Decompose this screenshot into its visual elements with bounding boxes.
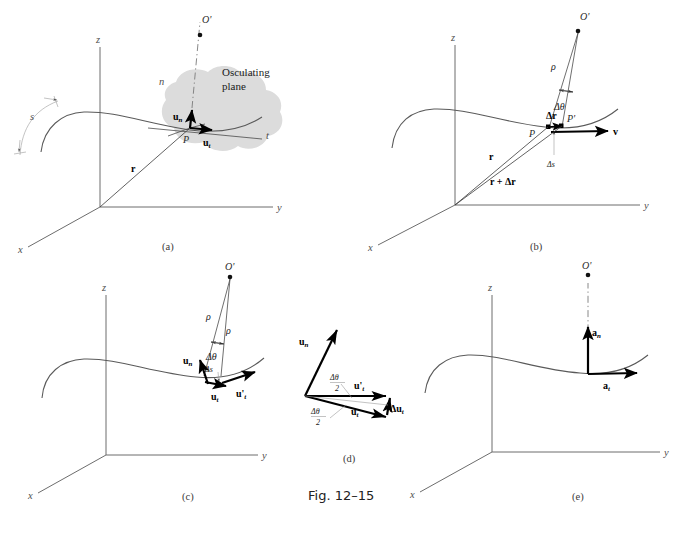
oprime-label-b: O' bbox=[580, 11, 590, 22]
canvas-background bbox=[0, 0, 680, 536]
delta-s-label-b: Δs bbox=[546, 160, 555, 169]
half-angle-den-lower-d: 2 bbox=[316, 418, 320, 427]
axis-y-label-e: y bbox=[663, 447, 669, 458]
axis-x-label-e: x bbox=[409, 489, 415, 500]
position-vector-label-a: r bbox=[131, 163, 136, 174]
radius-2-label-c: ρ bbox=[225, 325, 231, 336]
delta-r-label-b: Δr bbox=[546, 110, 557, 121]
axis-y-label-c: y bbox=[261, 450, 267, 461]
panel-label-b: (b) bbox=[530, 241, 543, 253]
axis-x-label-b: x bbox=[367, 242, 373, 253]
osculating-plane-label-line2: plane bbox=[222, 80, 246, 92]
position-vector-sum-label-b: r + Δr bbox=[490, 176, 516, 187]
delta-r-vector-b bbox=[548, 126, 562, 127]
half-angle-den-upper-d: 2 bbox=[335, 384, 339, 393]
arc-length-label-a: s bbox=[30, 111, 34, 122]
panel-label-a: (a) bbox=[162, 241, 174, 253]
point-p-label-a: P bbox=[182, 134, 189, 145]
oprime-dot-a bbox=[198, 33, 203, 38]
axis-z-label-e: z bbox=[487, 282, 492, 293]
oprime-label-c: O' bbox=[225, 261, 235, 272]
radius-1-label-c: ρ bbox=[205, 311, 211, 322]
oprime-label-e: O' bbox=[582, 260, 592, 271]
axis-y-label-a: y bbox=[276, 202, 282, 213]
osculating-plane-label-line1: Osculating bbox=[222, 66, 270, 78]
axis-y-label-b: y bbox=[643, 200, 649, 211]
figure-svg: z y x s t r O' un ut P n bbox=[0, 0, 680, 536]
oprime-dot-b bbox=[576, 29, 581, 34]
oprime-label-a: O' bbox=[202, 14, 212, 25]
velocity-label-b: v bbox=[613, 126, 618, 137]
panel-label-e: (e) bbox=[572, 491, 584, 503]
panel-label-d: (d) bbox=[343, 453, 356, 465]
delta-s-label-c: Δs bbox=[204, 365, 213, 374]
half-angle-num-lower-d: Δθ bbox=[310, 407, 320, 416]
half-angle-num-upper-d: Δθ bbox=[329, 373, 339, 382]
axis-z-label-b: z bbox=[450, 32, 455, 43]
point-p-label-b: P bbox=[528, 128, 535, 139]
panel-label-c: (c) bbox=[182, 491, 194, 503]
position-vector-label-b: r bbox=[489, 151, 494, 162]
oprime-dot-e bbox=[586, 273, 591, 278]
figure-caption: Fig. 12–15 bbox=[308, 488, 374, 503]
point-pprime-label-b: P' bbox=[566, 113, 576, 124]
axis-z-label-a: z bbox=[95, 34, 100, 45]
axis-x-label-c: x bbox=[27, 490, 33, 501]
axis-z-label-c: z bbox=[101, 282, 106, 293]
normal-axis-label-a: n bbox=[159, 76, 164, 87]
oprime-dot-c bbox=[228, 275, 233, 280]
radius-label-b: ρ bbox=[550, 61, 556, 72]
velocity-vector-b bbox=[551, 131, 608, 132]
axis-x-label-a: x bbox=[17, 244, 23, 255]
delta-theta-label-c: Δθ bbox=[205, 351, 217, 362]
accel-tangent-vector-e bbox=[588, 373, 637, 374]
figure-12-15: z y x s t r O' un ut P n bbox=[0, 0, 680, 536]
